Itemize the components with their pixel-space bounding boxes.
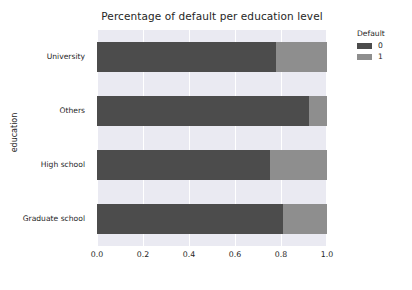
bar-segment-default-1 [276, 42, 327, 72]
chart-figure: Percentage of default per education leve… [0, 0, 412, 290]
legend-entries: 01 [357, 41, 407, 61]
bar-segment-default-0 [97, 150, 270, 180]
legend-title: Default [357, 29, 407, 38]
bar-group [97, 204, 327, 234]
legend-swatch-icon [357, 54, 372, 60]
bar-segment-default-1 [270, 150, 328, 180]
x-axis-tick-labels: 0.00.20.40.60.81.0 [97, 250, 327, 264]
x-axis-tick-label: 0.8 [266, 250, 296, 259]
bar-segment-default-0 [97, 204, 283, 234]
x-axis-tick-label: 1.0 [312, 250, 342, 259]
bar-segment-default-0 [97, 42, 276, 72]
bar-segment-default-1 [309, 96, 327, 126]
x-axis-tick-label: 0.2 [128, 250, 158, 259]
legend: Default 01 [357, 29, 407, 63]
y-axis-tick-label: University [47, 53, 85, 61]
bar-segment-default-0 [97, 96, 309, 126]
chart-title: Percentage of default per education leve… [97, 10, 327, 22]
legend-entry[interactable]: 0 [357, 41, 407, 50]
plot-area [97, 30, 327, 246]
legend-label: 0 [378, 41, 383, 50]
legend-label: 1 [378, 52, 383, 61]
legend-swatch-icon [357, 43, 372, 49]
y-axis-tick-label: High school [41, 161, 85, 169]
legend-entry[interactable]: 1 [357, 52, 407, 61]
bar-group [97, 96, 327, 126]
x-axis-tick-label: 0.4 [174, 250, 204, 259]
y-axis-tick-label: Graduate school [23, 215, 85, 223]
y-axis-tick-labels: UniversityOthersHigh schoolGraduate scho… [0, 30, 92, 246]
bar-group [97, 42, 327, 72]
x-axis-tick-label: 0.0 [82, 250, 112, 259]
bar-group [97, 150, 327, 180]
x-axis-tick-label: 0.6 [220, 250, 250, 259]
y-axis-tick-label: Others [59, 107, 85, 115]
bar-segment-default-1 [283, 204, 327, 234]
